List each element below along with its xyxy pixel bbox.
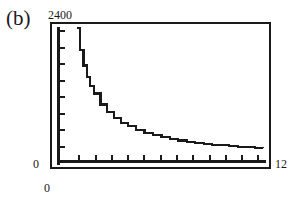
decay-curve <box>77 28 263 148</box>
y-axis-max-label: 2400 <box>48 9 72 21</box>
x-axis-max-label: 12 <box>275 158 287 170</box>
y-axis-min-label: 0 <box>33 158 39 170</box>
panel-label: (b) <box>6 8 31 29</box>
x-axis-min-label: 0 <box>44 182 50 194</box>
plot-frame <box>50 22 271 169</box>
curve-plot-area <box>52 24 269 167</box>
figure-panel-b: (b) 2400 0 0 12 <box>0 0 291 206</box>
